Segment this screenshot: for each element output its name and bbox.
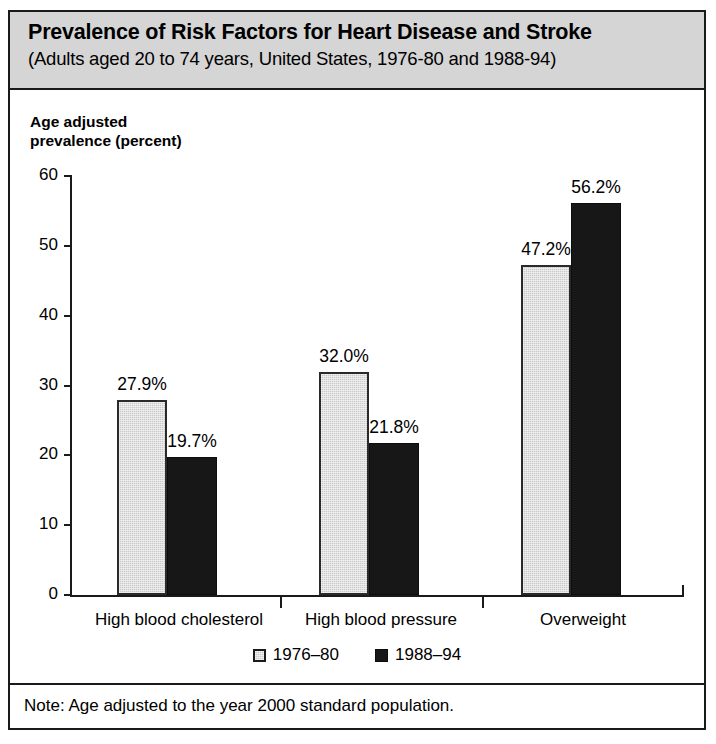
x-axis-group-separator-tick bbox=[482, 597, 484, 608]
title-block: Prevalence of Risk Factors for Heart Dis… bbox=[10, 12, 704, 90]
bar-value-label: 32.0% bbox=[299, 346, 389, 367]
bar bbox=[319, 372, 369, 595]
legend-swatch-icon-1976-80 bbox=[253, 649, 266, 662]
y-axis-tick-label: 60 bbox=[14, 165, 58, 185]
legend-item-1976-80[interactable]: 1976–80 bbox=[253, 645, 339, 665]
bar-value-label: 19.7% bbox=[147, 431, 237, 452]
y-axis-tick bbox=[64, 315, 72, 317]
y-axis-tick-label: 40 bbox=[14, 305, 58, 325]
x-axis-line bbox=[70, 595, 684, 597]
y-axis-line bbox=[70, 176, 72, 597]
y-axis-tick-label: 30 bbox=[14, 375, 58, 395]
y-axis-tick bbox=[64, 245, 72, 247]
bar bbox=[571, 203, 621, 595]
bar bbox=[167, 457, 217, 595]
bar-value-label: 56.2% bbox=[551, 177, 641, 198]
note-text: Note: Age adjusted to the year 2000 stan… bbox=[24, 696, 704, 716]
y-axis-tick bbox=[64, 385, 72, 387]
bar bbox=[369, 443, 419, 595]
bar bbox=[117, 400, 167, 595]
x-axis-end-tick bbox=[682, 585, 684, 597]
chart-subtitle: (Adults aged 20 to 74 years, United Stat… bbox=[28, 48, 704, 70]
y-axis-tick-label: 0 bbox=[14, 584, 58, 604]
y-axis-title: Age adjusted prevalence (percent) bbox=[30, 112, 182, 151]
y-axis-tick bbox=[64, 594, 72, 596]
legend-label-1976-80: 1976–80 bbox=[273, 645, 339, 665]
page-title: Prevalence of Risk Factors for Heart Dis… bbox=[28, 20, 704, 45]
y-axis-tick bbox=[64, 524, 72, 526]
x-axis-group-separator-tick bbox=[280, 597, 282, 608]
bar-value-label: 21.8% bbox=[349, 417, 439, 438]
legend-label-1988-94: 1988–94 bbox=[395, 645, 461, 665]
legend: 1976–80 1988–94 bbox=[10, 645, 704, 665]
x-axis-category-label: Overweight bbox=[482, 610, 684, 630]
bar-value-label: 27.9% bbox=[97, 374, 187, 395]
legend-swatch-icon-1988-94 bbox=[375, 649, 388, 662]
legend-item-1988-94[interactable]: 1988–94 bbox=[375, 645, 461, 665]
x-axis-category-label: High blood pressure bbox=[280, 610, 482, 630]
note-block: Note: Age adjusted to the year 2000 stan… bbox=[10, 685, 704, 728]
y-axis-tick bbox=[64, 175, 72, 177]
bar bbox=[521, 265, 571, 595]
plot-region: Age adjusted prevalence (percent) 010203… bbox=[10, 90, 704, 685]
x-axis-category-label: High blood cholesterol bbox=[78, 610, 280, 630]
figure-frame: Prevalence of Risk Factors for Heart Dis… bbox=[8, 10, 706, 730]
y-axis-tick-label: 10 bbox=[14, 514, 58, 534]
y-axis-tick-label: 50 bbox=[14, 235, 58, 255]
y-axis-tick bbox=[64, 454, 72, 456]
y-axis-tick-label: 20 bbox=[14, 444, 58, 464]
